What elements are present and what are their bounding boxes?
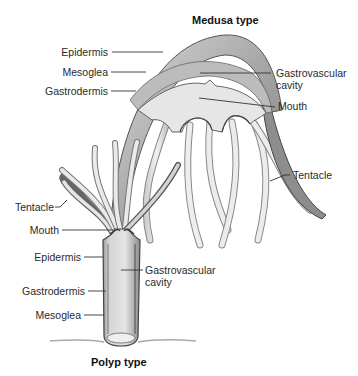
polyp-gastrodermis-label: Gastrodermis [22,285,85,297]
polyp-mouth-label: Mouth [30,224,59,236]
polyp-epidermis-label: Epidermis [34,251,81,263]
medusa-gastrovascular-label-1: Gastrovascular [276,67,347,79]
medusa-title: Medusa type [192,14,259,26]
medusa-mesoglea-label: Mesoglea [62,66,108,78]
medusa-gastrovascular-label-2: cavity [276,79,303,91]
medusa-epidermis-label: Epidermis [61,46,108,58]
polyp-base [107,333,135,343]
polyp-gastrovascular-label-2: cavity [145,276,172,288]
medusa-mouth-label: Mouth [278,100,307,112]
medusa-tentacle-label: Tentacle [293,169,332,181]
polyp-mesoglea-label: Mesoglea [35,309,81,321]
medusa-gastrodermis-label: Gastrodermis [45,85,108,97]
polyp-tentacle-label: Tentacle [15,201,54,213]
cnidarian-body-forms-diagram: Medusa type Polyp type Epidermis Mesogle… [0,0,358,376]
polyp-gastrovascular-label-1: Gastrovascular [145,264,216,276]
polyp-title: Polyp type [91,356,147,368]
